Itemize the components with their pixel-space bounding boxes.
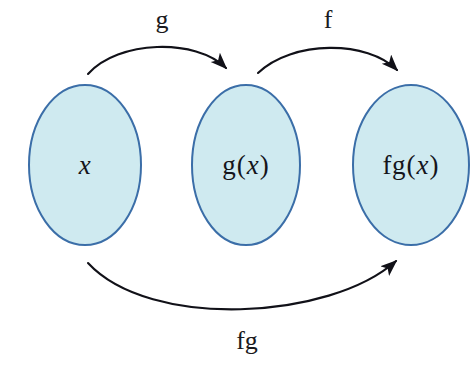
arrow-f	[258, 48, 397, 73]
arrow-label-f: f	[324, 7, 333, 33]
diagram-canvas	[0, 0, 473, 371]
function-composition-diagram: x g(x) fg(x) g f fg	[0, 0, 473, 371]
arrow-label-fg: fg	[236, 328, 258, 354]
domain-label: x	[79, 152, 91, 179]
arrow-fg	[88, 261, 396, 309]
arrow-g	[88, 47, 226, 74]
arrow-label-g: g	[156, 7, 169, 33]
intermediate-label: g(x)	[222, 152, 269, 179]
codomain-label: fg(x)	[383, 152, 440, 179]
